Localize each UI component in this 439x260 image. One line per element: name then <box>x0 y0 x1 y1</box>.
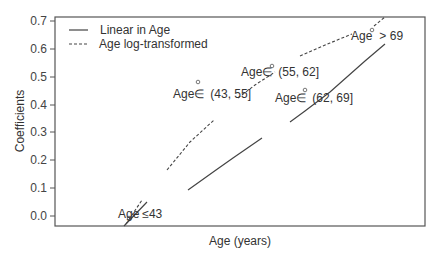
y-tick-label: 0.3 <box>30 125 47 139</box>
y-tick-label: 0.4 <box>30 98 47 112</box>
chart: 0.0 0.1 0.2 0.3 0.4 0.5 0.6 0.7 Age (yea… <box>0 0 439 260</box>
y-tick-label: 0.1 <box>30 181 47 195</box>
y-axis <box>50 21 55 216</box>
legend-label-log: Age log-transformed <box>99 37 208 51</box>
marker-43-55 <box>196 80 200 84</box>
y-axis-title: Coefficients <box>13 90 27 152</box>
x-axis-title: Age (years) <box>209 234 271 248</box>
annotation-age-55-62: Age∈(55, 62] <box>241 65 319 79</box>
legend: Linear in Age Age log-transformed <box>69 23 208 51</box>
annotation-age-gt-69: Age> 69 <box>351 29 403 43</box>
annotation-age-62-69: Age∈(62, 69] <box>275 91 353 105</box>
legend-label-linear: Linear in Age <box>100 23 170 37</box>
y-tick-label: 0.7 <box>30 14 47 28</box>
point-markers <box>127 28 374 220</box>
y-tick-label: 0.6 <box>30 42 47 56</box>
y-tick-label: 0.0 <box>30 209 47 223</box>
y-tick-label: 0.5 <box>30 70 47 84</box>
y-tick-label: 0.2 <box>30 153 47 167</box>
annotations: Age≤43 Age∈(43, 55] Age∈(55, 62] Age∈(62… <box>118 29 403 221</box>
annotation-age-43-55: Age∈(43, 55] <box>173 87 251 101</box>
